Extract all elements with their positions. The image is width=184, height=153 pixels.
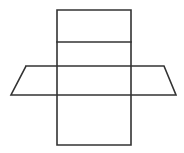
figure-container	[0, 0, 184, 153]
diagram-background	[0, 0, 184, 153]
geometric-net-diagram	[0, 0, 184, 153]
